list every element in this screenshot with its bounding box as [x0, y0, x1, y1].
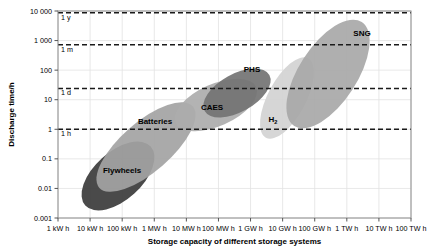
- x-tick-label: 100 GW h: [299, 224, 331, 233]
- x-axis-title: Storage capacity of different storage sy…: [148, 237, 322, 246]
- x-tick-label: 1 MW h: [142, 224, 167, 233]
- x-tick-label: 100 TW h: [395, 224, 426, 233]
- y-tick-label: 0.01: [38, 184, 52, 193]
- region-label-phs: PHS: [244, 65, 261, 74]
- reference-label-1h: 1 h: [61, 129, 71, 138]
- x-tick-label: 10 MW h: [172, 224, 201, 233]
- x-tick-label: 1 kW h: [47, 224, 69, 233]
- chart-canvas: 1 y1 m1 d1 hFlywheelsBatteriesCAESPHSH2S…: [0, 0, 430, 252]
- reference-label-1d: 1 d: [61, 88, 71, 97]
- y-tick-label: 0.001: [34, 214, 52, 223]
- y-tick-label: 1 000: [34, 36, 52, 45]
- reference-label-1y: 1 y: [61, 13, 71, 22]
- reference-label-1m: 1 m: [61, 45, 73, 54]
- storage-systems-chart: 1 y1 m1 d1 hFlywheelsBatteriesCAESPHSH2S…: [0, 0, 430, 252]
- region-label-flywheels: Flywheels: [103, 166, 142, 175]
- region-label-sng: SNG: [353, 29, 370, 38]
- y-tick-label: 10 000: [30, 7, 52, 16]
- y-tick-label: 100: [40, 66, 52, 75]
- y-axis-title: Discharge time/h: [7, 82, 16, 147]
- region-label-batteries: Batteries: [138, 117, 173, 126]
- y-tick-label: 1: [48, 125, 52, 134]
- x-tick-label: 10 kW h: [77, 224, 103, 233]
- x-tick-label: 10 GW h: [268, 224, 296, 233]
- x-tick-label: 100 kW h: [107, 224, 137, 233]
- y-tick-label: 0.1: [42, 154, 52, 163]
- y-tick-label: 10: [44, 95, 52, 104]
- x-tick-label: 10 TW h: [365, 224, 392, 233]
- x-tick-label: 1 TW h: [335, 224, 358, 233]
- x-tick-label: 100 MW h: [202, 224, 235, 233]
- x-tick-label: 1 GW h: [238, 224, 262, 233]
- region-label-caes: CAES: [201, 103, 224, 112]
